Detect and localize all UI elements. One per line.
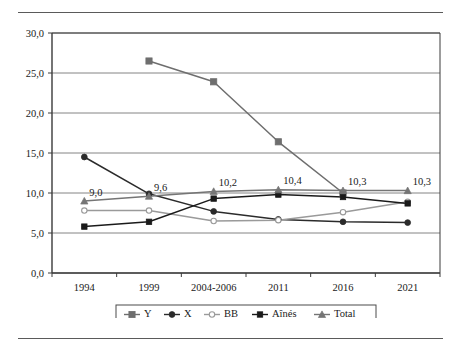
y-tick-label: 15,0 (26, 148, 44, 159)
series-lines (84, 61, 407, 227)
x-tick-label: 2016 (333, 282, 354, 293)
data-point-aînés (146, 219, 151, 224)
legend-label: Y (144, 308, 152, 318)
data-point-y (211, 79, 217, 85)
series-line-bb (84, 202, 407, 221)
data-label: 10,3 (348, 176, 366, 187)
x-tick-label: 2011 (268, 282, 289, 293)
data-label: 9,0 (89, 187, 102, 198)
data-point-x (340, 219, 346, 225)
series-line-x (84, 157, 407, 223)
series-markers (81, 58, 412, 229)
legend-label: BB (224, 308, 238, 318)
legend-marker-aînés (257, 312, 262, 317)
data-point-aînés (82, 224, 87, 229)
data-label: 10,2 (219, 177, 237, 188)
y-tick-label: 20,0 (26, 108, 44, 119)
data-point-y (275, 139, 281, 145)
y-tick-label: 0,0 (31, 268, 44, 279)
data-point-y (146, 58, 152, 64)
figure-rule-top (18, 12, 443, 13)
data-point-x (211, 209, 217, 215)
x-tick-label: 1994 (74, 282, 96, 293)
data-point-x (81, 154, 87, 160)
data-point-bb (340, 210, 345, 215)
legend-marker-bb (209, 312, 214, 317)
legend-label: Aînés (272, 308, 297, 318)
line-chart: 0,05,010,015,020,025,030,0 199419992004-… (0, 18, 455, 318)
y-axis-tick-labels: 0,05,010,015,020,025,030,0 (26, 28, 44, 279)
data-label: 10,3 (413, 176, 431, 187)
data-point-bb (211, 218, 216, 223)
legend-marker-x (169, 312, 175, 318)
legend-label: Total (334, 308, 356, 318)
gridlines (52, 33, 440, 273)
data-labels: 9,09,610,210,410,310,3 (89, 175, 431, 197)
x-tick-label: 2021 (397, 282, 418, 293)
y-tick-label: 5,0 (31, 228, 44, 239)
data-point-aînés (405, 201, 410, 206)
legend-label: X (184, 308, 192, 318)
data-point-bb (276, 218, 281, 223)
figure-container: 0,05,010,015,020,025,030,0 199419992004-… (0, 0, 455, 354)
data-label: 9,6 (154, 182, 167, 193)
chart-svg: 0,05,010,015,020,025,030,0 199419992004-… (0, 18, 455, 318)
data-label: 10,4 (283, 175, 302, 186)
y-tick-label: 30,0 (26, 28, 44, 39)
x-axis-tick-labels: 199419992004-2006201120162021 (74, 282, 418, 293)
series-line-y (149, 61, 343, 193)
figure-rule-bottom (18, 338, 443, 339)
legend-marker-y (129, 311, 135, 317)
x-tick-label: 1999 (139, 282, 160, 293)
data-point-bb (146, 208, 151, 213)
data-point-aînés (340, 194, 345, 199)
x-tick-label: 2004-2006 (191, 282, 237, 293)
data-point-aînés (211, 196, 216, 201)
data-point-bb (82, 208, 87, 213)
y-tick-label: 10,0 (26, 188, 44, 199)
chart-legend[interactable]: YXBBAînésTotal (116, 305, 376, 318)
y-tick-label: 25,0 (26, 68, 44, 79)
data-point-x (405, 220, 411, 226)
